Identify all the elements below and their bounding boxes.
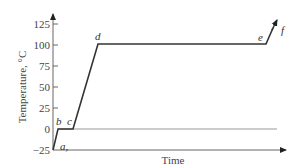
x-axis-title: Time	[162, 154, 185, 166]
y-tick-label: 75	[39, 60, 51, 72]
point-label-a: a,	[60, 140, 69, 152]
point-label-b: b	[56, 115, 62, 127]
heating-curve-line	[53, 28, 273, 150]
point-label-f: f	[281, 24, 286, 36]
y-tick-label: 50	[39, 81, 51, 93]
y-tick-label: 100	[34, 39, 51, 51]
y-tick-label: 125	[34, 18, 51, 30]
heating-curve-chart: 125 100 75 50 25 0 −25 Temperature, °C T…	[0, 0, 298, 168]
y-tick-label: 0	[45, 123, 51, 135]
heating-curve-arrow	[272, 20, 277, 30]
y-ticks	[53, 24, 58, 108]
y-tick-labels: 125 100 75 50 25 0 −25	[33, 18, 51, 156]
y-tick-label: −25	[33, 144, 51, 156]
y-axis-title: Temperature, °C	[16, 51, 28, 124]
point-label-c: c	[67, 115, 72, 127]
point-label-e: e	[258, 31, 263, 43]
y-tick-label: 25	[39, 102, 51, 114]
point-label-d: d	[95, 30, 101, 42]
